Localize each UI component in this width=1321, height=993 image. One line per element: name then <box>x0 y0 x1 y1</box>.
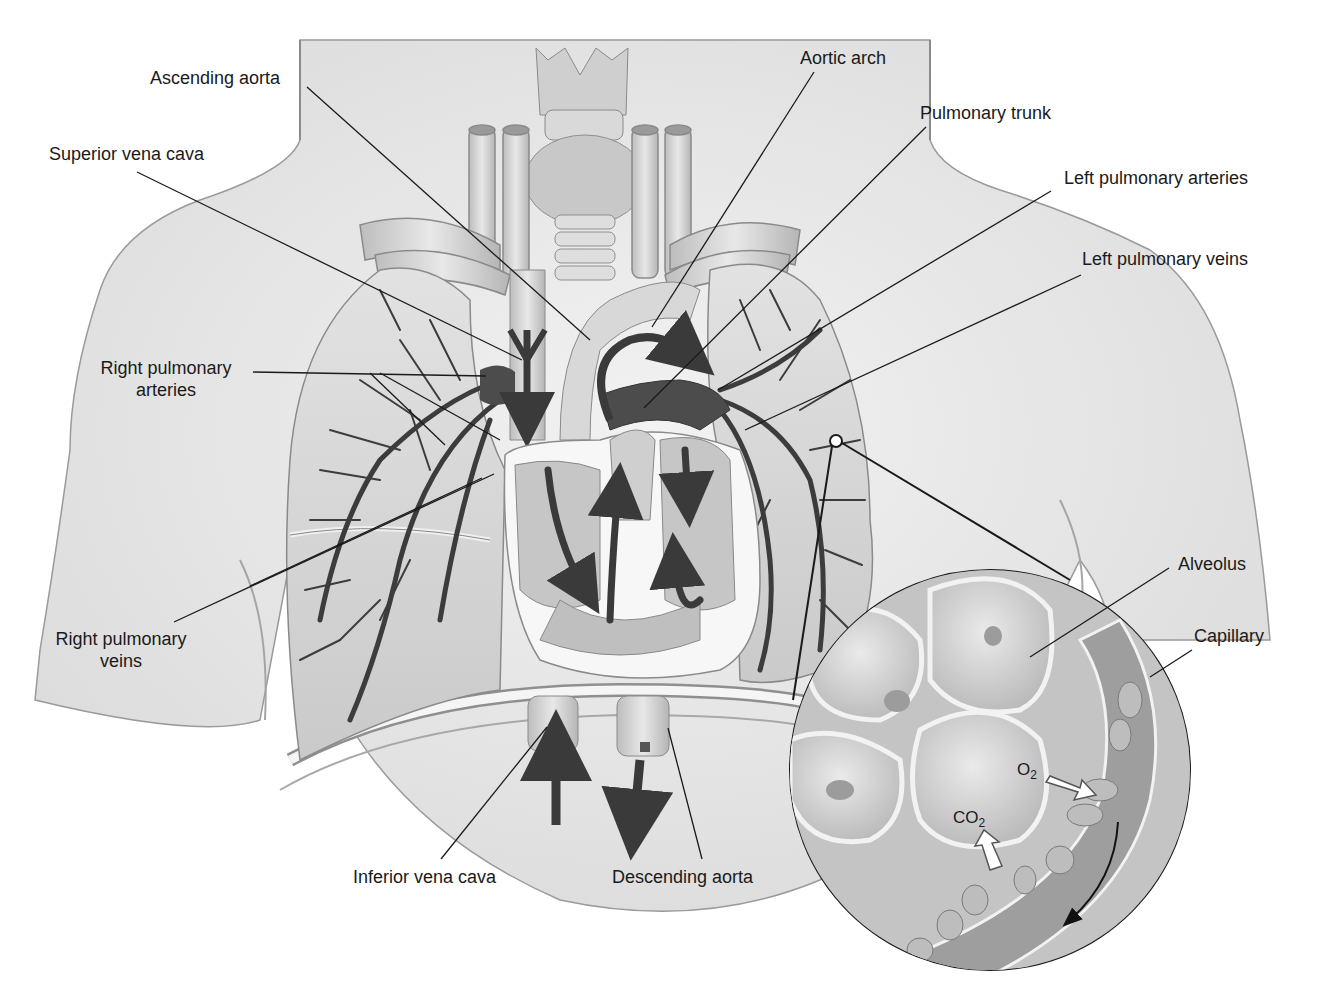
label-right-pulmonary-veins-line2: veins <box>41 650 201 672</box>
label-left-pulmonary-veins: Left pulmonary veins <box>1082 248 1248 270</box>
o2-symbol: O <box>1017 760 1030 779</box>
co2-subscript: 2 <box>979 816 986 830</box>
label-right-pulmonary-veins: Right pulmonary veins <box>41 628 201 672</box>
label-ascending-aorta: Ascending aorta <box>150 67 280 89</box>
label-right-pulmonary-arteries-line2: arteries <box>86 379 246 401</box>
label-descending-aorta: Descending aorta <box>612 866 753 888</box>
label-inferior-vena-cava: Inferior vena cava <box>353 866 496 888</box>
label-right-pulmonary-arteries-line1: Right pulmonary <box>86 357 246 379</box>
label-o2: O2 <box>1017 760 1037 780</box>
heart <box>504 430 760 678</box>
label-co2: CO2 <box>953 808 985 828</box>
label-capillary: Capillary <box>1194 625 1264 647</box>
label-pulmonary-trunk: Pulmonary trunk <box>920 102 1051 124</box>
label-right-pulmonary-arteries: Right pulmonary arteries <box>86 357 246 401</box>
label-right-pulmonary-veins-line1: Right pulmonary <box>41 628 201 650</box>
anatomy-diagram: Ascending aorta Aortic arch Pulmonary tr… <box>0 0 1321 993</box>
co2-symbol: CO <box>953 808 979 827</box>
label-superior-vena-cava: Superior vena cava <box>49 143 204 165</box>
label-left-pulmonary-arteries: Left pulmonary arteries <box>1064 167 1248 189</box>
label-alveolus: Alveolus <box>1178 553 1246 575</box>
o2-subscript: 2 <box>1030 768 1037 782</box>
label-aortic-arch: Aortic arch <box>800 47 886 69</box>
